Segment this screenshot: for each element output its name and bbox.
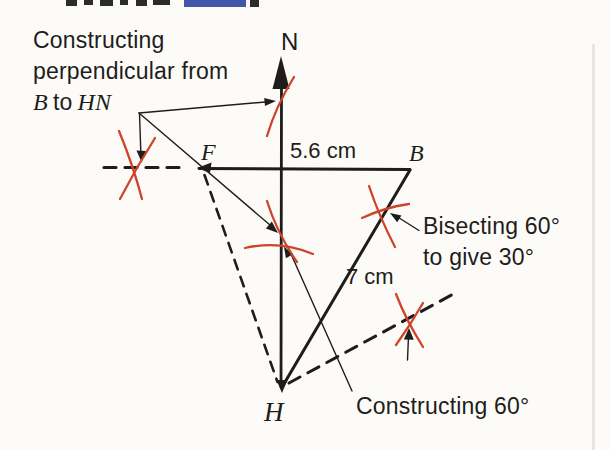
textbook-construction-figure: Constructing perpendicular from BtoHN N … [0, 0, 611, 450]
dashed-line-fh [205, 175, 278, 382]
north-label: N [281, 30, 298, 54]
arrowhead-upper-arc [264, 98, 276, 106]
annotation-perpendicular-line2: perpendicular from [33, 56, 228, 87]
annotation-sixty: Constructing 60° [356, 395, 530, 418]
line-fb [199, 169, 410, 170]
page-edge-shadow [592, 44, 595, 450]
h-end-arrowhead [277, 380, 288, 393]
point-label-f: F [201, 140, 216, 164]
annotation-bisecting-line2: to give 30° [423, 242, 560, 273]
arrowhead-bisecting [390, 213, 401, 222]
measurement-fb: 5.6 cm [290, 140, 356, 162]
leader-line-to-left-cross [140, 114, 142, 157]
leader-line-sixty-long [291, 254, 352, 391]
arc-mark-lower-hn-shallow [245, 245, 313, 254]
annotation-perpendicular-line1: Constructing [33, 25, 228, 56]
annotation-perpendicular: Constructing perpendicular from BtoHN [33, 25, 228, 118]
annotation-point-b: B [33, 89, 48, 115]
point-label-b: B [409, 141, 424, 165]
annotation-perpendicular-line3: BtoHN [33, 87, 228, 118]
annotation-bisecting: Bisecting 60° to give 30° [423, 211, 560, 273]
annotation-bisecting-line1: Bisecting 60° [423, 211, 560, 242]
point-label-h: H [264, 399, 284, 426]
annotation-line-hn: HN [77, 89, 111, 115]
measurement-hb: 7 cm [346, 266, 394, 288]
north-arrowhead [273, 56, 290, 89]
annotation-to: to [53, 89, 73, 115]
